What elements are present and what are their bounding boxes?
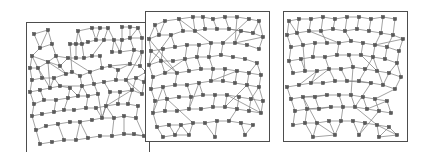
graph-node (118, 90, 121, 93)
graph-edge (259, 87, 263, 101)
graph-edge (313, 123, 317, 137)
graph-node (291, 123, 294, 126)
graph-node (102, 80, 105, 83)
graph-edge (353, 121, 359, 135)
graph-node (387, 71, 390, 74)
graph-edge (32, 116, 36, 130)
graph-node (161, 47, 164, 50)
graph-node (120, 25, 123, 28)
graph-edge (293, 111, 295, 125)
graph-node (261, 35, 264, 38)
graph-node (175, 71, 178, 74)
graph-node (86, 94, 89, 97)
graph-node (371, 55, 374, 58)
graph-edge (163, 85, 175, 87)
graph-node (104, 104, 107, 107)
graph-node (355, 27, 358, 30)
graph-node (317, 107, 320, 110)
graph-node (227, 27, 230, 30)
graph-node (257, 85, 260, 88)
graph-edge (151, 89, 155, 101)
graph-node (74, 56, 77, 59)
graph-edge (321, 17, 323, 31)
graph-edge (189, 69, 201, 71)
graph-node (219, 53, 222, 56)
graph-node (159, 59, 162, 62)
graph-edge (187, 83, 199, 85)
graph-node (147, 37, 150, 40)
graph-node (30, 78, 33, 81)
graph-node (64, 72, 67, 75)
node-layer (147, 15, 264, 138)
graph-edge (235, 71, 237, 83)
graph-node (199, 107, 202, 110)
graph-node (235, 15, 238, 18)
graph-node (155, 125, 158, 128)
graph-edge (175, 73, 177, 85)
graph-edge (193, 17, 195, 31)
graph-node (179, 123, 182, 126)
graph-node (195, 55, 198, 58)
graph-node (213, 93, 216, 96)
graph-node (369, 17, 372, 20)
graph-edge (34, 30, 48, 34)
graph-edge (58, 124, 64, 140)
graph-node (100, 66, 103, 69)
graph-node (36, 66, 39, 69)
graph-edge (167, 97, 179, 99)
graph-edge (209, 55, 221, 57)
graph-edge (213, 17, 225, 19)
graph-node (377, 109, 380, 112)
graph-node (357, 133, 360, 136)
graph-edge (223, 81, 235, 83)
graph-edge (48, 62, 50, 88)
graph-node (295, 31, 298, 34)
graph-node (68, 42, 71, 45)
graph-node (247, 109, 250, 112)
graph-node (243, 133, 246, 136)
graph-edge (201, 107, 213, 109)
graph-node (311, 135, 314, 138)
graph-node (42, 98, 45, 101)
graph-edge (235, 37, 263, 43)
graph-node (375, 123, 378, 126)
graph-edge (359, 111, 379, 135)
graph-edge (209, 43, 211, 57)
figure-container (0, 0, 421, 152)
graph-node (149, 49, 152, 52)
graph-node (351, 65, 354, 68)
graph-node (86, 136, 89, 139)
graph-node (38, 46, 41, 49)
graph-node (62, 138, 65, 141)
graph-node (151, 111, 154, 114)
graph-edge (375, 99, 379, 111)
graph-node (112, 38, 115, 41)
graph-node (106, 26, 109, 29)
graph-node (251, 123, 254, 126)
graph-node (149, 87, 152, 90)
graph-panel-1 (26, 22, 150, 152)
graph-node (38, 142, 41, 145)
graph-edge (241, 123, 245, 135)
graph-edge (165, 19, 179, 21)
graph-node (173, 83, 176, 86)
graph-node (383, 57, 386, 60)
graph-edge (313, 135, 335, 137)
graph-node (231, 55, 234, 58)
graph-edge (76, 138, 88, 140)
graph-edge (341, 107, 343, 121)
graph-node (247, 17, 250, 20)
graph-node (211, 105, 214, 108)
graph-node (157, 33, 160, 36)
graph-node (257, 47, 260, 50)
graph-edge (120, 50, 134, 52)
graph-edge (153, 73, 165, 77)
graph-node (203, 27, 206, 30)
graph-node (325, 41, 328, 44)
graph-edge (205, 123, 215, 137)
graph-edge (235, 43, 247, 45)
graph-node (339, 119, 342, 122)
graph-edge (118, 92, 120, 104)
graph-node (88, 70, 91, 73)
graph-node (50, 140, 53, 143)
